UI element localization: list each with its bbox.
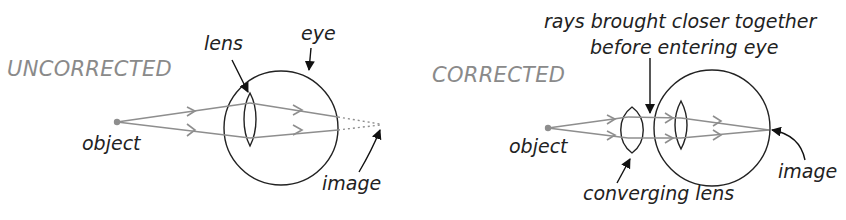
converging-lens-label: converging lens [583,182,734,204]
eye-circle [224,71,338,185]
object-label: object [509,135,569,157]
image-pointer-arrow [359,130,380,172]
light-rays [114,103,380,138]
image-pointer-arrow [772,130,805,160]
uncorrected-panel: UNCORRECTED object lens eye image [7,22,381,194]
eye-pointer-arrow [309,48,311,70]
lens-label: lens [204,32,243,54]
corrected-panel: CORRECTED rays brought closer together b… [432,10,837,204]
light-rays [545,113,769,143]
uncorrected-title: UNCORRECTED [7,57,172,81]
image-label: image [778,160,837,182]
farsightedness-diagram: UNCORRECTED object lens eye image [0,0,846,220]
image-label: image [322,172,381,194]
object-label: object [82,132,142,154]
annotation-line-2: before entering eye [590,36,778,58]
converging-lens-pointer-arrow [617,159,630,183]
eye-lens [675,101,687,149]
converging-lens [621,107,644,153]
lens-pointer-arrow [232,60,248,92]
corrected-title: CORRECTED [432,63,565,87]
eye-label: eye [301,22,336,44]
annotation-line-1: rays brought closer together [544,10,818,32]
